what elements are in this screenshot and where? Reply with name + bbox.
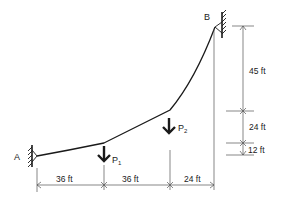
load-p2: P2 [163, 118, 188, 134]
dim-label-45ft: 45 ft [249, 66, 266, 76]
support-b-pin-icon [215, 22, 222, 33]
dim-label-12ft: 12 ft [248, 145, 265, 155]
horizontal-dimensions: 36 ft 36 ft 24 ft [37, 30, 214, 192]
support-b-label: B [204, 12, 210, 22]
support-b: B [204, 10, 226, 38]
dim-label-24ft-vertical: 24 ft [249, 122, 266, 132]
dim-label-36ft-b: 36 ft [122, 174, 139, 184]
cable-line [37, 27, 215, 156]
dim-label-24ft: 24 ft [184, 174, 201, 184]
load-p1: P1 [98, 146, 122, 166]
support-a: A [14, 145, 37, 167]
dim-label-36ft-a: 36 ft [56, 174, 73, 184]
support-a-label: A [14, 152, 20, 162]
vertical-dimensions: 45 ft 24 ft 12 ft [226, 26, 266, 155]
load-p2-label: P2 [178, 123, 188, 134]
load-p1-label: P1 [112, 155, 122, 166]
cable-diagram: A B P1 P2 [0, 0, 283, 203]
